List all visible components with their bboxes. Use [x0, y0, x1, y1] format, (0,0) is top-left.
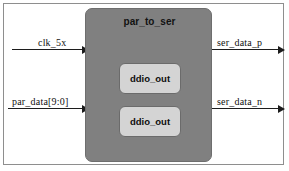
signal-line-par-data	[8, 108, 83, 109]
signal-line-ser-data-p	[212, 49, 279, 50]
signal-line-ser-data-n	[212, 108, 279, 109]
signal-line-clk-5x	[12, 49, 83, 50]
signal-label-ser-data-n: ser_data_n	[217, 96, 262, 107]
arrowhead-icon-ser-data-n	[278, 105, 285, 113]
signal-label-ser-data-p: ser_data_p	[217, 37, 262, 48]
block-diagram-canvas: clk_5x par_data[9:0] par_to_ser ddio_out…	[0, 0, 289, 171]
sub-block-ddio-out-1: ddio_out	[119, 63, 181, 94]
module-title-par-to-ser: par_to_ser	[86, 16, 213, 27]
sub-block-label-ddio-out-1: ddio_out	[130, 73, 170, 84]
signal-arrow-ser-data-n: ser_data_n	[212, 91, 286, 113]
signal-label-par-data: par_data[9:0]	[12, 96, 68, 107]
signal-arrow-clk-5x: clk_5x	[12, 32, 90, 54]
arrowhead-icon-ser-data-p	[278, 46, 285, 54]
sub-block-ddio-out-2: ddio_out	[119, 106, 181, 137]
module-block-par-to-ser: par_to_ser ddio_out ddio_out	[85, 8, 212, 162]
signal-label-clk-5x: clk_5x	[38, 37, 66, 48]
sub-block-label-ddio-out-2: ddio_out	[130, 116, 170, 127]
signal-arrow-par-data: par_data[9:0]	[8, 91, 90, 113]
signal-arrow-ser-data-p: ser_data_p	[212, 32, 286, 54]
